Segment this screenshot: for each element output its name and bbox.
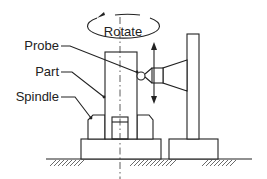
part-leader-dot <box>103 96 106 99</box>
ground-hatch-middle <box>130 160 176 166</box>
spindle-leader-dot <box>90 117 93 120</box>
probe-stylus <box>145 68 152 83</box>
chuck-jaw-right <box>137 115 153 139</box>
spindle-label: Spindle <box>16 89 59 104</box>
probe-head-body <box>163 60 187 91</box>
spindle-base <box>81 139 161 159</box>
probe-stand-base <box>169 139 218 159</box>
probe-ball-tip <box>137 72 145 80</box>
spindle-leader-line <box>61 97 91 118</box>
diagram-canvas: Rotate Probe Part Spindle <box>0 0 267 179</box>
part-label: Part <box>35 64 59 79</box>
part-leader-line <box>61 72 104 97</box>
part <box>105 52 137 139</box>
ground-hatch-left <box>50 160 84 166</box>
rotate-label: Rotate <box>104 24 142 39</box>
ground-hatch-right <box>202 160 236 166</box>
probe-label: Probe <box>24 38 59 53</box>
probe-stand-column <box>187 34 199 139</box>
probe-leader-dot <box>136 71 139 74</box>
